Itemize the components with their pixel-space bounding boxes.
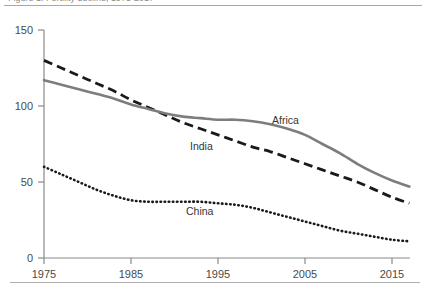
x-tick-label-1985: 1985 [111, 268, 151, 280]
x-tick-label-1995: 1995 [198, 268, 238, 280]
figure-root: Figure 1. Fertility decline, 1975-2017 1… [0, 0, 425, 290]
x-tick-label-2015: 2015 [372, 268, 412, 280]
series-line-china [44, 167, 409, 241]
y-tick-label-0: 0 [3, 252, 33, 264]
y-axis-ticks [38, 30, 44, 258]
series-line-africa [44, 80, 409, 186]
y-tick-label-150: 150 [3, 24, 33, 36]
series-annotation-china: China [186, 205, 213, 217]
series-annotation-india: India [190, 140, 213, 152]
x-tick-label-2005: 2005 [285, 268, 325, 280]
y-tick-label-50: 50 [3, 176, 33, 188]
y-tick-label-100: 100 [3, 100, 33, 112]
series-annotation-africa: Africa [272, 114, 299, 126]
series-line-india [44, 60, 409, 203]
x-tick-label-1975: 1975 [24, 268, 64, 280]
bottom-divider-rule [10, 282, 420, 283]
x-axis-ticks [44, 258, 392, 264]
